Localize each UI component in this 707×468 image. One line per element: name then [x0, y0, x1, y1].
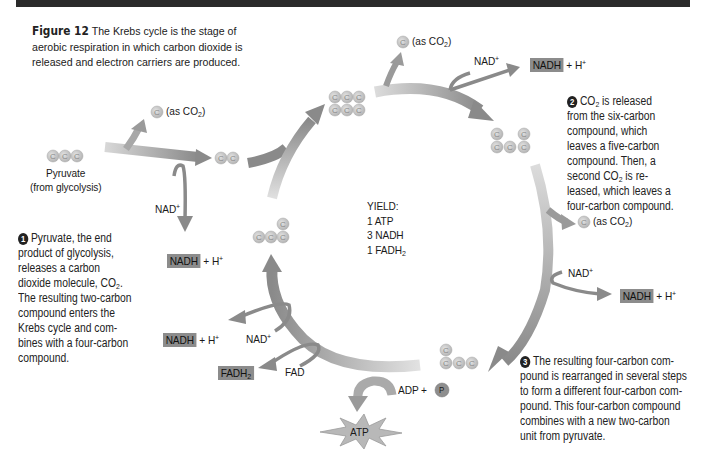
svg-text:C: C — [230, 154, 236, 163]
nadh-output-1: NADH + H+ — [167, 254, 223, 269]
svg-text:C: C — [456, 359, 462, 368]
svg-text:C: C — [356, 106, 362, 115]
svg-text:C: C — [521, 143, 527, 152]
step-3-text: 3The resulting four-carbon com- pound is… — [520, 354, 687, 444]
svg-text:C: C — [332, 93, 338, 102]
svg-text:C: C — [332, 106, 338, 115]
atp-loop-arrow — [348, 381, 392, 412]
acetyl-join-arrow — [248, 104, 325, 198]
svg-text:C: C — [443, 359, 449, 368]
svg-text:C: C — [74, 152, 80, 161]
svg-text:C: C — [507, 143, 513, 152]
svg-text:C: C — [494, 143, 500, 152]
svg-text:C: C — [344, 93, 350, 102]
step-number-3: 3 — [520, 356, 530, 368]
svg-text:C: C — [521, 130, 527, 139]
svg-text:C: C — [154, 108, 160, 117]
svg-text:C: C — [400, 38, 406, 47]
svg-text:C: C — [356, 93, 362, 102]
yield-fadh2: 1 FADH2 — [367, 243, 406, 258]
yield-atp: 1 ATP — [367, 214, 406, 229]
nad-label-4: NAD+ — [246, 332, 271, 347]
svg-text:C: C — [280, 233, 286, 242]
step-2-text: 2CO2 is released from the six-carbon com… — [567, 94, 674, 214]
fad-label: FAD — [285, 365, 304, 380]
svg-text:C: C — [50, 152, 56, 161]
nadh-box: NADH — [163, 333, 197, 347]
pyruvate-source: (from glycolysis) — [30, 180, 102, 195]
fadh2-box: FADH2 — [218, 366, 254, 380]
svg-text:C: C — [494, 130, 500, 139]
svg-text:C: C — [581, 218, 587, 227]
atp-label: ATP — [350, 425, 369, 440]
pyruvate-label: Pyruvate — [46, 166, 85, 181]
nad-label-1: NAD+ — [155, 202, 180, 217]
nadh-output-3: NADH + H+ — [620, 289, 676, 304]
step-number-2: 2 — [567, 96, 577, 108]
co2-label-2: (as CO2) — [412, 35, 451, 47]
yield-nadh: 3 NADH — [367, 228, 406, 243]
nadh-output-2: NADH + H+ — [530, 58, 586, 73]
svg-text:C: C — [218, 154, 224, 163]
nad-label-2: NAD+ — [474, 54, 499, 69]
nadh-box: NADH — [530, 58, 564, 72]
svg-text:C: C — [280, 220, 286, 229]
step-1-text: 1Pyruvate, the end product of glycolysis… — [18, 231, 132, 366]
yield-block: YIELD: 1 ATP 3 NADH 1 FADH2 — [367, 199, 406, 257]
co2-label-1: (as CO2) — [166, 105, 205, 117]
svg-text:C: C — [256, 233, 262, 242]
svg-text:C: C — [443, 346, 449, 355]
step-number-1: 1 — [18, 233, 28, 245]
yield-title: YIELD: — [367, 199, 406, 214]
svg-text:C: C — [62, 152, 68, 161]
phosphate-label: P — [439, 383, 444, 398]
fadh2-output: FADH2 — [218, 366, 254, 381]
svg-text:C: C — [344, 106, 350, 115]
adp-label: ADP + — [398, 383, 427, 398]
svg-text:C: C — [268, 233, 274, 242]
nadh-output-4: NADH + H+ — [163, 333, 219, 348]
bottom-cycle-arrow — [228, 254, 420, 371]
nadh-box: NADH — [167, 254, 201, 268]
co2-label-3: (as CO2) — [593, 215, 632, 227]
nad-label-3: NAD+ — [568, 266, 593, 281]
nadh-box: NADH — [620, 289, 654, 303]
svg-text:C: C — [469, 359, 475, 368]
